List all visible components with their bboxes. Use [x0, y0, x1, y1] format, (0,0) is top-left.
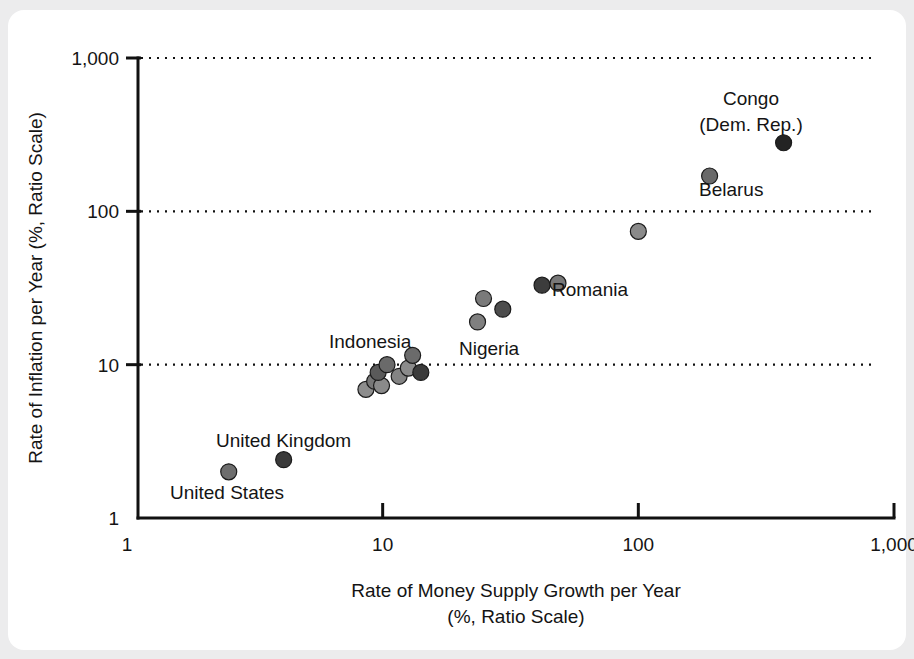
chart-canvas: 1101001,000 1101001,000 Congo(Dem. Rep.)… — [0, 0, 914, 659]
x-tick-label-1000: 1,000 — [870, 534, 914, 555]
nigeria-label: Nigeria — [459, 338, 520, 359]
data-point-16 — [630, 223, 646, 239]
data-point-6 — [379, 357, 395, 373]
y-tick-label-100: 100 — [87, 201, 119, 222]
x-axis-title: Rate of Money Supply Growth per Year — [351, 580, 681, 601]
data-point-united-states — [221, 464, 237, 480]
data-point-congo-dem-rep — [776, 135, 792, 151]
y-tick-label-10: 10 — [98, 355, 119, 376]
x-tick-label-10: 10 — [372, 534, 393, 555]
x-axis-tick-labels-group: 1101001,000 — [122, 534, 914, 555]
data-point-13 — [495, 301, 511, 317]
y-tick-label-1000: 1,000 — [71, 48, 119, 69]
indonesia-label: Indonesia — [329, 331, 412, 352]
y-tick-label-1: 1 — [108, 508, 119, 529]
congo-label-line2: (Dem. Rep.) — [699, 114, 802, 135]
data-point-nigeria — [470, 314, 486, 330]
data-point-10 — [413, 364, 429, 380]
x-tick-label-100: 100 — [622, 534, 654, 555]
congo-label: Congo — [723, 88, 779, 109]
data-point-12 — [476, 291, 492, 307]
belarus-label: Belarus — [699, 179, 763, 200]
data-point-united-kingdom — [276, 452, 292, 468]
data-point-14 — [534, 277, 550, 293]
romania-label: Romania — [552, 279, 628, 300]
y-axis-tick-labels-group: 1101001,000 — [71, 48, 119, 529]
y-axis-title: Rate of Inflation per Year (%, Ratio Sca… — [25, 112, 46, 464]
scatter-plot: 1101001,000 1101001,000 Congo(Dem. Rep.)… — [0, 0, 914, 659]
united-states-label: United States — [170, 482, 284, 503]
x-tick-label-1: 1 — [122, 534, 133, 555]
x-axis-title-line2: (%, Ratio Scale) — [447, 606, 584, 627]
x-axis-ticks-group — [383, 503, 894, 518]
united-kingdom-label: United Kingdom — [216, 430, 351, 451]
